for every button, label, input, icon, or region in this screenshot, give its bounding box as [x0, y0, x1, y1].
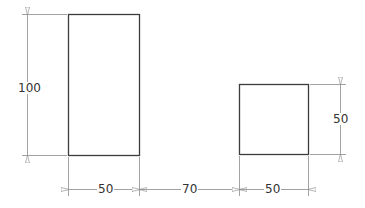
- dim-label-tall-width: 50: [97, 183, 114, 195]
- dim-label-square-width: 50: [264, 183, 281, 195]
- square: [240, 85, 309, 155]
- dim-label-square-height: 50: [332, 113, 349, 125]
- dim-label-gap: 70: [181, 183, 198, 195]
- tall-rectangle: [69, 15, 140, 156]
- drawing-svg: [0, 0, 365, 208]
- dim-label-tall-height: 100: [17, 82, 42, 94]
- technical-drawing: 100 50 70 50 50: [0, 0, 365, 208]
- extension-lines: [22, 15, 346, 197]
- dimension-lines: [28, 15, 341, 190]
